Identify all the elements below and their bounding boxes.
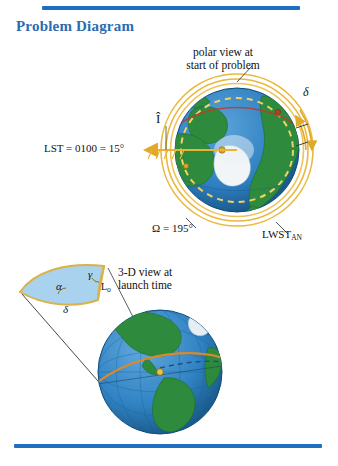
label-leader-lines xyxy=(186,66,288,234)
page-title: Problem Diagram xyxy=(16,18,134,35)
lo-subscript: o xyxy=(107,285,111,294)
launch-longitude-label: Lo xyxy=(101,281,111,294)
bottom-divider-rule xyxy=(14,444,322,448)
polar-view-caption-line1: polar view at xyxy=(193,46,253,58)
top-divider-rule xyxy=(42,6,300,10)
raan-label: Ω = 195° xyxy=(152,222,193,234)
polar-view-caption-line2: start of problem xyxy=(186,59,259,71)
slide-page: Problem Diagram xyxy=(0,0,338,466)
polar-view-caption: polar view at start of problem xyxy=(163,46,283,72)
lwst-an-label: LWSTAN xyxy=(262,228,302,242)
gamma-angle-label: γ xyxy=(88,268,92,280)
delta-arc-arrows xyxy=(296,110,312,150)
delta-side-label: δ xyxy=(63,303,68,315)
three-d-view-caption: 3-D view at launch time xyxy=(118,266,214,292)
delta-arc-label: δ xyxy=(303,86,309,99)
i-hat-label: Î xyxy=(156,112,160,127)
lwst-subscript: AN xyxy=(291,233,302,242)
lst-label: LST = 0100 = 15° xyxy=(44,142,124,154)
lwst-text: LWST xyxy=(262,228,291,240)
alpha-angle-label: α xyxy=(56,280,62,292)
three-d-view-caption-line2: launch time xyxy=(118,279,172,291)
polar-view-globe xyxy=(145,66,313,234)
three-d-view-caption-line1: 3-D view at xyxy=(118,266,172,278)
i-hat-axis xyxy=(145,126,232,159)
